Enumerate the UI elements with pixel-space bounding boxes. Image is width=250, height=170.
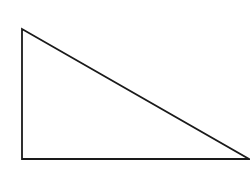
right-triangle xyxy=(22,29,249,159)
diagram-canvas xyxy=(0,0,250,170)
right-triangle-figure xyxy=(0,0,250,170)
